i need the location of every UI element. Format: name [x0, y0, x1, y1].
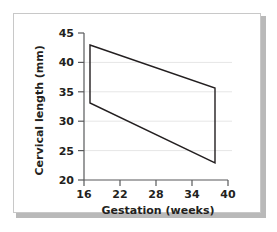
xtick-label-40: 40 — [213, 188, 243, 201]
x-axis-title: Gestation (weeks) — [84, 204, 232, 217]
xtick-label-16: 16 — [69, 188, 99, 201]
ytick-label-40: 40 — [48, 56, 74, 69]
ytick-label-45: 45 — [48, 27, 74, 40]
y-axis-title: Cervical length (mm) — [33, 46, 46, 176]
ytick-label-20: 20 — [48, 174, 74, 187]
ytick-label-30: 30 — [48, 115, 74, 128]
xtick-label-22: 22 — [105, 188, 135, 201]
plot-area: 45 40 35 30 25 20 16 22 28 34 40 Gestati… — [0, 0, 277, 232]
x-axis-ticks — [84, 180, 228, 186]
ytick-label-25: 25 — [48, 145, 74, 158]
y-axis-ticks — [78, 33, 84, 180]
gridlines — [84, 62, 232, 150]
xtick-label-28: 28 — [141, 188, 171, 201]
xtick-label-34: 34 — [177, 188, 207, 201]
ytick-label-35: 35 — [48, 86, 74, 99]
figure-root: 45 40 35 30 25 20 16 22 28 34 40 Gestati… — [0, 0, 277, 232]
